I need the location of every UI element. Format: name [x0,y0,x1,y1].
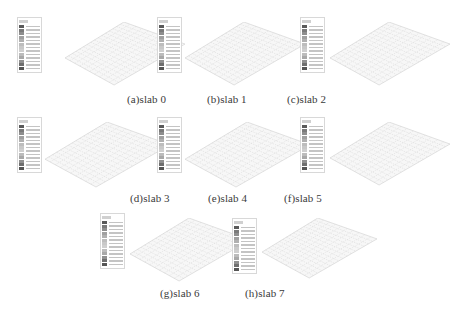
caption-c: (c)slab 2 [287,93,326,105]
legend-d [17,117,42,173]
caption-e: (e)slab 4 [208,192,247,204]
legend-title [159,120,168,123]
slab-mesh-c [330,22,454,90]
slab-mesh-e [185,122,315,192]
legend-row [159,67,180,70]
legend-row [102,263,123,266]
slab-mesh-f [330,122,454,190]
legend-e [157,117,182,173]
legend-title [19,20,28,23]
legend-title [302,120,311,123]
legend-c [300,17,325,73]
legend-a [17,17,42,73]
legend-row [302,67,323,70]
legend-title [159,20,168,23]
slab-mesh-b [185,22,310,90]
legend-row [234,268,255,271]
legend-title [102,216,111,219]
legend-title [19,120,28,123]
caption-g: (g)slab 6 [160,287,200,299]
slab-mesh-h [262,218,382,283]
caption-a: (a)slab 0 [127,93,166,105]
legend-h [232,218,257,274]
legend-row [159,167,180,170]
legend-title [234,221,243,224]
legend-row [19,67,40,70]
legend-title [302,20,311,23]
caption-h: (h)slab 7 [245,287,285,299]
legend-f [300,117,325,173]
legend-row [302,167,323,170]
legend-b [157,17,182,73]
caption-f: (f)slab 5 [284,192,322,204]
legend-row [19,167,40,170]
caption-b: (b)slab 1 [207,93,247,105]
slab-mesh-d [45,122,175,192]
caption-d: (d)slab 3 [130,192,170,204]
legend-g [100,213,125,269]
